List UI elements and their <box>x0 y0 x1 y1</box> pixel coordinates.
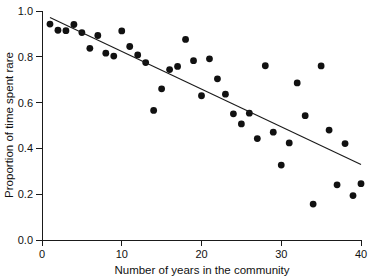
data-point <box>71 21 78 28</box>
data-point <box>126 43 133 50</box>
x-tick-label: 40 <box>355 248 367 260</box>
data-point <box>110 53 117 60</box>
data-point <box>270 129 277 136</box>
data-point <box>286 140 293 147</box>
data-point <box>190 57 197 64</box>
y-tick-label: 0.0 <box>18 234 33 246</box>
data-points-group <box>47 21 365 208</box>
data-point <box>150 107 157 114</box>
data-point <box>294 80 301 87</box>
x-tick-label: 30 <box>275 248 287 260</box>
regression-fit-line <box>50 17 361 164</box>
data-point <box>158 85 165 92</box>
y-tick-label: 0.8 <box>18 51 33 63</box>
data-point <box>206 55 213 62</box>
y-tick-label: 0.4 <box>18 142 33 154</box>
data-point <box>318 63 325 70</box>
data-point <box>334 181 341 188</box>
data-point <box>254 135 261 142</box>
data-point <box>94 32 101 39</box>
y-axis-title: Proportion of time spent rare <box>3 52 15 198</box>
data-point <box>214 75 221 82</box>
x-tick-label: 10 <box>116 248 128 260</box>
data-point <box>358 180 365 187</box>
y-tick-label: 0.2 <box>18 188 33 200</box>
data-point <box>86 45 93 52</box>
data-point <box>118 28 125 35</box>
data-point <box>310 201 317 208</box>
data-point <box>63 27 70 34</box>
data-point <box>350 192 357 199</box>
data-point <box>262 62 269 69</box>
data-point <box>302 112 309 119</box>
data-point <box>278 162 285 169</box>
y-axis-ticks: 0.00.20.40.60.81.0 <box>18 5 42 246</box>
data-point <box>174 63 181 70</box>
data-point <box>198 92 205 99</box>
x-axis-ticks: 010203040 <box>39 240 367 260</box>
x-tick-label: 0 <box>39 248 45 260</box>
data-point <box>342 140 349 147</box>
data-point <box>166 66 173 73</box>
chart-canvas: 0.00.20.40.60.81.0 010203040 Number of y… <box>0 0 369 280</box>
x-tick-label: 20 <box>195 248 207 260</box>
data-point <box>182 36 189 43</box>
data-point <box>230 110 237 117</box>
data-point <box>326 127 333 134</box>
data-point <box>55 27 62 34</box>
x-axis-title: Number of years in the community <box>114 264 289 276</box>
data-point <box>47 21 54 28</box>
scatter-plot-figure: 0.00.20.40.60.81.0 010203040 Number of y… <box>0 0 369 280</box>
data-point <box>222 91 229 98</box>
data-point <box>102 50 109 57</box>
y-tick-label: 1.0 <box>18 5 33 17</box>
y-tick-label: 0.6 <box>18 97 33 109</box>
data-point <box>238 120 245 127</box>
